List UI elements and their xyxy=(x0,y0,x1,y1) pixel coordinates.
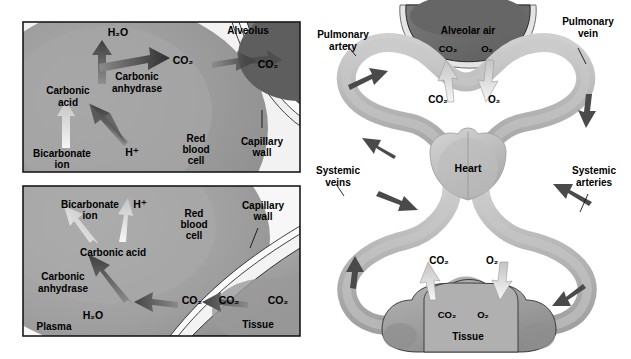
label-heart: Heart xyxy=(455,162,482,174)
label-pulmonary-artery-line2: artery xyxy=(329,41,357,52)
label-carbonic-anhydrase-line1-bottom: Carbonic xyxy=(41,271,85,282)
label-carbonic-acid-line1-top: Carbonic xyxy=(46,85,90,96)
label-alveolar-air: Alveolar air xyxy=(441,25,496,36)
label-carbonic-anhydrase-line1-top: Carbonic xyxy=(115,71,159,82)
label-systemic-arteries-line2: arteries xyxy=(576,177,613,188)
label-tissue-co2: CO₂ xyxy=(438,309,456,320)
label-carbonic-anhydrase-line2-top: anhydrase xyxy=(112,83,162,94)
tissue-cell-right-nucleus xyxy=(521,323,555,349)
tissue-cell-left-nucleus xyxy=(383,323,417,349)
label-plasma: Plasma xyxy=(36,321,71,332)
label-hydrogen-ion-bottom: H⁺ xyxy=(133,198,147,210)
label-pulmonary-vein-line1: Pulmonary xyxy=(562,16,614,27)
label-co2-cell-bottom: CO₂ xyxy=(182,294,203,306)
label-alveolar-o2: O₂ xyxy=(481,43,493,54)
label-blood-co2-pulmonary: CO₂ xyxy=(428,94,447,105)
label-systemic-veins-line2: veins xyxy=(325,177,351,188)
label-alveolar-co2: CO₂ xyxy=(439,43,457,54)
label-co2-tissue-bottom: CO₂ xyxy=(268,294,289,306)
label-carbonic-acid-line2-top: acid xyxy=(58,97,78,108)
label-water-bottom: H₂O xyxy=(83,309,103,321)
label-bicarbonate-line1-top: Bicarbonate xyxy=(33,148,91,159)
label-rbc-line2-top: blood xyxy=(182,144,209,155)
label-co2-cell-top: CO₂ xyxy=(173,54,194,66)
label-rbc-line2-bottom: blood xyxy=(180,219,207,230)
label-tissue-o2: O₂ xyxy=(477,309,489,320)
label-bicarbonate-line1-bottom: Bicarbonate xyxy=(61,199,119,210)
label-tissue-bottom-left: Tissue xyxy=(242,319,274,330)
label-blood-o2-systemic: O₂ xyxy=(486,255,498,266)
figure-canvas: H₂O CO₂ CO₂ Alveolus Carbonic anhydrase … xyxy=(0,0,631,359)
label-co2-alveolus-top: CO₂ xyxy=(258,58,279,70)
label-carbonic-acid-bottom: Carbonic acid xyxy=(80,247,146,258)
label-systemic-veins-line1: Systemic xyxy=(316,165,360,176)
label-systemic-arteries-line1: Systemic xyxy=(572,165,616,176)
label-blood-o2-pulmonary: O₂ xyxy=(488,94,500,105)
label-blood-co2-systemic: CO₂ xyxy=(429,255,448,266)
label-rbc-line1-bottom: Red xyxy=(185,208,204,219)
label-water-top: H₂O xyxy=(108,26,128,38)
label-bicarbonate-line2-bottom: ion xyxy=(83,210,98,221)
label-capillary-wall-line1-bottom: Capillary xyxy=(242,200,285,211)
label-rbc-line3-bottom: cell xyxy=(186,230,203,241)
label-hydrogen-ion-top: H⁺ xyxy=(125,146,139,158)
label-alveolus: Alveolus xyxy=(227,25,269,36)
label-co2-plasma-bottom: CO₂ xyxy=(219,294,240,306)
label-carbonic-anhydrase-line2-bottom: anhydrase xyxy=(38,283,88,294)
label-pulmonary-artery-line1: Pulmonary xyxy=(317,29,369,40)
label-capillary-wall-line1-top: Capillary xyxy=(241,136,284,147)
label-capillary-wall-line2-top: wall xyxy=(252,147,272,158)
label-bicarbonate-line2-top: ion xyxy=(55,159,70,170)
label-rbc-line3-top: cell xyxy=(188,155,205,166)
label-rbc-line1-top: Red xyxy=(187,133,206,144)
label-capillary-wall-line2-bottom: wall xyxy=(253,211,273,222)
label-tissue-right: Tissue xyxy=(452,331,484,342)
label-pulmonary-vein-line2: vein xyxy=(578,28,598,39)
